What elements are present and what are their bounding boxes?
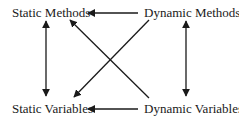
diagram-edges xyxy=(0,0,239,121)
arrow-dynamic-methods-to-static-variables xyxy=(74,20,149,97)
